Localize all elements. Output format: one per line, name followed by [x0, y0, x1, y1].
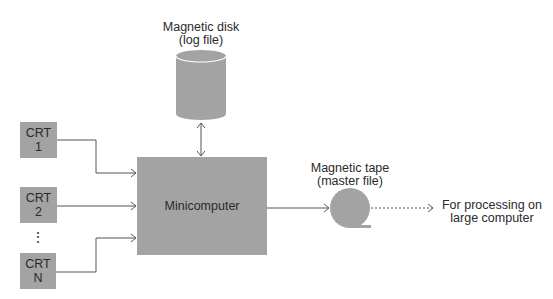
magnetic-tape-label: Magnetic tape (master file) [300, 162, 400, 188]
magnetic-disk-label-line2: (log file) [151, 34, 251, 47]
output-destination-label-line2: large computer [436, 212, 548, 225]
crt-n-label-line1: CRT [25, 257, 50, 271]
magnetic-tape-reel-icon [330, 188, 371, 228]
output-destination-label: For processing on large computer [436, 199, 548, 225]
magnetic-disk-label: Magnetic disk (log file) [151, 21, 251, 47]
diagram-canvas [0, 0, 553, 299]
minicomputer-label: Minicomputer [137, 157, 267, 255]
crt-1-label: CRT 1 [20, 122, 57, 158]
crt-2-label-line1: CRT [26, 191, 51, 205]
crt-1-connector [57, 140, 136, 173]
crt-1-label-line1: CRT [26, 126, 51, 140]
crt-n-label-line2: N [33, 271, 42, 285]
crt-2-label-line2: 2 [35, 205, 42, 219]
magnetic-tape-label-line2: (master file) [300, 175, 400, 188]
crt-1-label-line2: 1 [35, 140, 42, 154]
crt-n-label: CRT N [20, 253, 56, 289]
crt-2-label: CRT 2 [20, 187, 57, 223]
magnetic-disk-cylinder-icon [176, 50, 226, 120]
crt-ellipsis: ⋮ [28, 228, 48, 246]
crt-n-connector [56, 238, 136, 272]
